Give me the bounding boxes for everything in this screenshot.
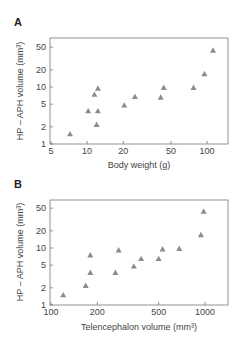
figure: A 5102050100125102050 Body weight (g) HP… — [0, 0, 239, 341]
triangle-marker-icon — [67, 131, 73, 136]
y-tick-label: 5 — [41, 260, 46, 270]
y-tick-label: 50 — [36, 42, 46, 52]
triangle-marker-icon — [156, 256, 162, 261]
panel-a-frame — [50, 38, 228, 144]
panel-b-axes: 1002005001000125102050 — [36, 203, 215, 317]
triangle-marker-icon — [158, 94, 164, 99]
triangle-marker-icon — [191, 85, 197, 90]
x-tick-label: 100 — [200, 146, 215, 156]
triangle-marker-icon — [85, 108, 91, 113]
y-tick-label: 20 — [36, 65, 46, 75]
triangle-marker-icon — [60, 292, 66, 297]
triangle-marker-icon — [91, 91, 97, 96]
x-tick-label: 10 — [82, 146, 92, 156]
triangle-marker-icon — [201, 208, 207, 213]
y-tick-label: 2 — [41, 283, 46, 293]
panel-a-points — [67, 47, 216, 136]
triangle-marker-icon — [210, 47, 216, 52]
panel-a-axes: 5102050100125102050 — [36, 42, 215, 156]
panel-b: B 1002005001000125102050 Telencephalon v… — [14, 178, 228, 332]
panel-b-label: B — [14, 178, 22, 190]
x-tick-label: 5 — [48, 146, 53, 156]
panel-a: A 5102050100125102050 Body weight (g) HP… — [14, 16, 228, 170]
panel-b-points — [60, 208, 206, 297]
y-tick-label: 1 — [41, 139, 46, 149]
triangle-marker-icon — [112, 270, 118, 275]
y-tick-label: 5 — [41, 99, 46, 109]
panel-b-y-axis-label: HP – APH volume (mm³) — [15, 203, 25, 301]
triangle-marker-icon — [83, 282, 89, 287]
triangle-marker-icon — [95, 108, 101, 113]
x-tick-label: 20 — [118, 146, 128, 156]
x-tick-label: 1000 — [195, 307, 215, 317]
x-tick-label: 200 — [90, 307, 105, 317]
y-tick-label: 2 — [41, 122, 46, 132]
triangle-marker-icon — [161, 85, 167, 90]
x-tick-label: 500 — [151, 307, 166, 317]
triangle-marker-icon — [121, 102, 127, 107]
triangle-marker-icon — [131, 263, 137, 268]
panel-a-y-axis-label: HP – APH volume (mm³) — [15, 42, 25, 140]
y-tick-label: 1 — [41, 300, 46, 310]
triangle-marker-icon — [201, 71, 207, 76]
y-tick-label: 20 — [36, 226, 46, 236]
panel-b-frame — [50, 200, 228, 305]
panel-a-label: A — [14, 16, 22, 28]
y-tick-label: 10 — [36, 82, 46, 92]
triangle-marker-icon — [138, 256, 144, 261]
panel-a-x-axis-label: Body weight (g) — [108, 160, 171, 170]
panel-b-x-axis-label: Telencephalon volume (mm³) — [81, 322, 197, 332]
triangle-marker-icon — [198, 232, 204, 237]
y-tick-label: 10 — [36, 243, 46, 253]
triangle-marker-icon — [160, 246, 166, 251]
triangle-marker-icon — [116, 247, 122, 252]
triangle-marker-icon — [94, 121, 100, 126]
x-tick-label: 50 — [166, 146, 176, 156]
triangle-marker-icon — [95, 85, 101, 90]
triangle-marker-icon — [176, 246, 182, 251]
triangle-marker-icon — [87, 270, 93, 275]
triangle-marker-icon — [87, 252, 93, 257]
y-tick-label: 50 — [36, 203, 46, 213]
triangle-marker-icon — [132, 94, 138, 99]
